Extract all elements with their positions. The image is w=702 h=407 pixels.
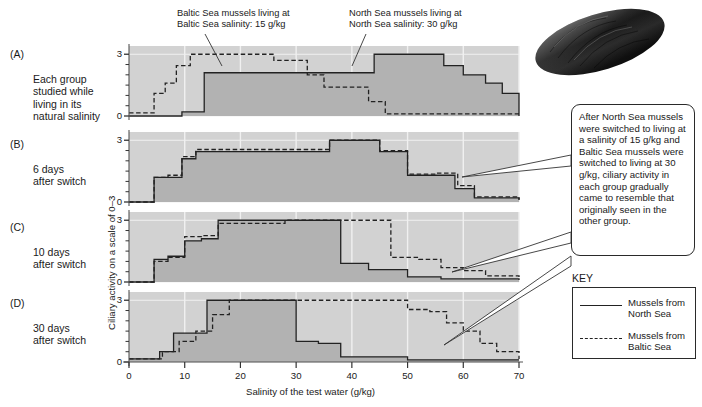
- area-fill-0: [129, 54, 519, 116]
- key-label-north-sea: Mussels from North Sea: [628, 298, 694, 320]
- x-tick-label: 20: [224, 370, 256, 381]
- x-axis: [123, 362, 523, 368]
- x-tick-label: 60: [447, 370, 479, 381]
- panel-label-c: (C) 10 days after switch: [10, 221, 110, 283]
- area-fill-2: [129, 220, 519, 282]
- x-tick-label: 10: [169, 370, 201, 381]
- key-title: KEY: [572, 272, 593, 284]
- x-tick-label: 40: [336, 370, 368, 381]
- panel-caption-d: 30 days after switch: [33, 322, 110, 347]
- series-line-north-sea: [129, 54, 519, 116]
- area-fill-3: [129, 300, 519, 362]
- series-line-north-sea: [129, 220, 519, 282]
- callout-pointers: [444, 155, 571, 345]
- panel-tag-b: (B): [10, 138, 24, 150]
- y-tick-label: 3: [109, 48, 122, 59]
- key-label-baltic-sea: Mussels from Baltic Sea: [628, 331, 694, 353]
- x-tick-label: 30: [280, 370, 312, 381]
- x-tick-label: 70: [503, 370, 535, 381]
- panel-tag-d: (D): [10, 297, 25, 309]
- series-line-baltic-sea: [129, 300, 519, 359]
- y-tick-label: 3: [109, 134, 122, 145]
- y-tick-label: 3: [109, 214, 122, 225]
- y-tick-label: 0: [109, 196, 122, 207]
- panel-label-a: (A) Each group studied while living in i…: [10, 48, 110, 135]
- callout-explanation: After North Sea mussels were switched to…: [571, 104, 695, 256]
- panel-plot-a: [124, 44, 519, 120]
- y-tick-label: 0: [109, 110, 122, 121]
- series-line-north-sea: [129, 300, 519, 360]
- panel-label-b: (B) 6 days after switch: [10, 138, 110, 200]
- y-tick-label: 0: [109, 356, 122, 367]
- panel-tag-a: (A): [10, 48, 24, 60]
- panel-plot-d: [124, 290, 519, 366]
- panel-plot-b: [124, 130, 519, 206]
- series-line-north-sea: [129, 140, 519, 202]
- series-line-baltic-sea: [129, 54, 519, 114]
- annotation-north-top: North Sea mussels living at North Sea sa…: [349, 8, 524, 30]
- figure-root: (A) Each group studied while living in i…: [0, 0, 702, 407]
- x-tick-label: 50: [392, 370, 424, 381]
- annotation-baltic-top: Baltic Sea mussels living at Baltic Sea …: [177, 8, 337, 30]
- y-tick-label: 3: [109, 294, 122, 305]
- mussel-photo: [528, 0, 673, 88]
- panel-caption-a: Each group studied while living in its n…: [33, 73, 110, 123]
- x-axis-label: Salinity of the test water (g/kg): [246, 386, 375, 397]
- panel-plot-c: [124, 210, 519, 286]
- panel-caption-c: 10 days after switch: [33, 246, 110, 271]
- x-tick-label: 0: [113, 370, 145, 381]
- panel-label-d: (D) 30 days after switch: [10, 297, 110, 359]
- series-line-baltic-sea: [129, 220, 519, 282]
- key-swatch-north-sea: [580, 305, 622, 306]
- y-tick-label: 0: [109, 276, 122, 287]
- series-line-baltic-sea: [129, 140, 519, 202]
- panel-tag-c: (C): [10, 221, 25, 233]
- area-fill-1: [129, 140, 519, 202]
- leader-lines: [205, 34, 366, 66]
- key-swatch-baltic-sea: [580, 338, 622, 339]
- panel-caption-b: 6 days after switch: [33, 163, 110, 188]
